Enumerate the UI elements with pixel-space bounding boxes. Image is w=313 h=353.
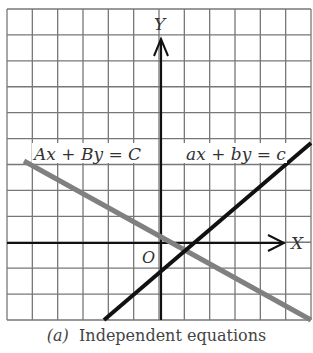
caption-part: (a) (47, 326, 69, 345)
graph: Ax + By = C ax + by = c Y X O (0, 0, 313, 326)
y-axis-label: Y (154, 14, 167, 34)
label-ax-by-c: ax + by = c (186, 144, 286, 164)
figure-caption: (a) Independent equations (0, 326, 313, 345)
x-axis-label: X (289, 233, 304, 253)
origin-label: O (142, 248, 155, 267)
line-Ax-By-C (24, 161, 311, 320)
caption-text: Independent equations (79, 326, 266, 345)
label-Ax-By-C: Ax + By = C (32, 144, 141, 164)
